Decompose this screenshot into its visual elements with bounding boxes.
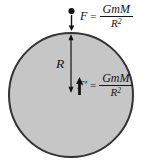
equation-internal-force: F′ = GmM R2 [77, 72, 133, 98]
force-f-arrowhead-down [69, 26, 75, 31]
equation-external-fraction: GmM R2 [100, 3, 133, 29]
radius-label: R [56, 57, 64, 71]
equation-external-numerator: GmM [100, 3, 133, 17]
equation-external-lhs: F [80, 10, 87, 22]
equation-external-force: F = GmM R2 [80, 3, 133, 29]
equation-internal-denominator: R2 [111, 86, 121, 98]
equation-external-denominator: R2 [111, 17, 121, 29]
gravity-sphere-diagram: F = GmM R2 R F′ = GmM R2 [0, 0, 141, 163]
equation-internal-fraction: GmM R2 [99, 72, 132, 98]
equation-internal-denominator-exponent: 2 [117, 86, 121, 95]
equation-internal-numerator: GmM [99, 72, 132, 86]
equation-external-denominator-base: R [111, 17, 118, 29]
equation-external-denominator-exponent: 2 [118, 17, 122, 26]
equation-external-equals: = [90, 11, 96, 22]
equation-internal-lhs: F′ [77, 79, 87, 91]
equation-internal-equals: = [90, 80, 96, 91]
particle-dot [68, 8, 74, 14]
